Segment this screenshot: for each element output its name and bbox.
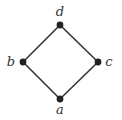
hasse-diagram: d b c a	[0, 0, 122, 120]
node-label-d: d	[56, 4, 64, 19]
node-label-a: a	[56, 102, 64, 117]
node-d	[57, 22, 64, 29]
edge-b-d	[23, 25, 60, 62]
node-b	[20, 59, 27, 66]
node-label-c: c	[105, 54, 113, 69]
edge-c-d	[60, 25, 98, 62]
edges	[23, 25, 98, 99]
node-c	[95, 59, 102, 66]
nodes	[20, 22, 102, 103]
edge-a-b	[23, 62, 60, 99]
node-label-b: b	[7, 54, 15, 69]
edge-a-c	[60, 62, 98, 99]
